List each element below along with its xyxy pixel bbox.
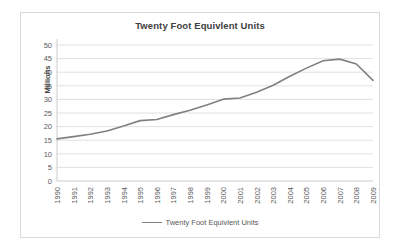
- x-axis-tick-label: 1995: [136, 187, 145, 204]
- legend-item-label: Twenty Foot Equivlent Units: [166, 218, 259, 227]
- y-axis-tick-label: 35: [44, 82, 52, 91]
- y-axis-tick-label: 5: [48, 163, 52, 172]
- y-axis-tick-label: 15: [44, 136, 52, 145]
- y-axis-tick-label: 10: [44, 150, 52, 159]
- x-axis-tick-label: 2000: [219, 187, 228, 204]
- plot-area: 05101520253035404550 1990199119921993199…: [21, 13, 381, 239]
- y-axis-tick-label: 30: [44, 95, 52, 104]
- x-axis-tick-label: 1992: [86, 187, 95, 204]
- x-axis-tick-label: 1996: [153, 187, 162, 204]
- x-axis-tick-label: 1993: [103, 187, 112, 204]
- x-axis-tick-label: 1999: [203, 187, 212, 204]
- x-axis-tick-label: 2009: [369, 187, 378, 204]
- x-axis-tick-label: 2006: [319, 187, 328, 204]
- chart-container: Twenty Foot Equivlent Units Millions 051…: [20, 12, 380, 238]
- y-axis-tick-label: 40: [44, 68, 52, 77]
- y-axis-tick-labels: 05101520253035404550: [44, 41, 52, 186]
- y-axis-tick-label: 25: [44, 109, 52, 118]
- chart-legend: Twenty Foot Equivlent Units: [21, 218, 379, 227]
- x-axis-tick-label: 2003: [269, 187, 278, 204]
- x-axis-tick-label: 2008: [352, 187, 361, 204]
- x-axis-tick-label: 2001: [236, 187, 245, 204]
- y-axis-tick-label: 0: [48, 177, 52, 186]
- x-axis-tick-label: 1991: [70, 187, 79, 204]
- x-axis-tick-label: 2002: [253, 187, 262, 204]
- x-axis-tick-label: 2005: [302, 187, 311, 204]
- x-axis-tick-label: 2007: [336, 187, 345, 204]
- y-axis-tick-label: 45: [44, 54, 52, 63]
- x-axis-tick-label: 1990: [53, 187, 62, 204]
- x-axis-tick-label: 1998: [186, 187, 195, 204]
- y-axis-tick-label: 20: [44, 122, 52, 131]
- legend-line-swatch: [142, 222, 162, 223]
- x-axis-tick-label: 1997: [169, 187, 178, 204]
- y-axis-tick-label: 50: [44, 41, 52, 50]
- x-axis-tick-label: 1994: [120, 187, 129, 204]
- x-axis-tick-labels: 1990199119921993199419951996199719981999…: [53, 187, 378, 204]
- x-axis-tick-label: 2004: [286, 187, 295, 204]
